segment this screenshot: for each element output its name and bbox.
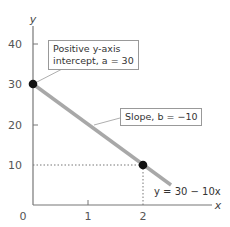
intercept-point xyxy=(29,80,38,89)
intercept-callout-line1: Positive y-axis xyxy=(53,43,134,55)
chart: 40 30 20 10 0 1 2 y x Positive y-axis in… xyxy=(0,0,230,227)
slope-leader xyxy=(94,118,120,125)
y-tick-label-20: 20 xyxy=(8,119,22,132)
y-tick-label-30: 30 xyxy=(8,78,22,91)
intercept-callout-line2: intercept, a = 30 xyxy=(53,55,134,67)
equation-label: y = 30 − 10x xyxy=(154,186,221,197)
x-tick-label-1: 1 xyxy=(85,210,92,223)
regression-line xyxy=(33,84,171,185)
y-tick-label-10: 10 xyxy=(8,159,22,172)
intercept-callout: Positive y-axis intercept, a = 30 xyxy=(48,40,139,70)
origin-label: 0 xyxy=(20,210,27,223)
y-tick-label-40: 40 xyxy=(8,38,22,51)
x-axis-label: x xyxy=(214,199,222,212)
point-2-10 xyxy=(139,161,148,170)
y-axis-label: y xyxy=(29,13,37,26)
x-tick-label-2: 2 xyxy=(140,210,147,223)
slope-callout: Slope, b = −10 xyxy=(120,108,202,126)
